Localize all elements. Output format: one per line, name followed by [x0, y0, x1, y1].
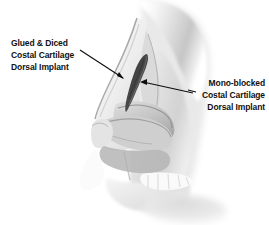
- label-right-line-2: Costal Cartilage: [202, 89, 265, 101]
- glued-and-diced-graft-label: Glued & Diced Costal Cartilage Dorsal Im…: [11, 37, 74, 73]
- figure-canvas: Glued & Diced Costal Cartilage Dorsal Im…: [0, 0, 269, 225]
- label-left-line-2: Costal Cartilage: [11, 49, 74, 61]
- label-right-line-3: Dorsal Implant: [202, 101, 265, 113]
- label-right-line-1: Mono-blocked: [202, 77, 265, 89]
- label-left-line-3: Dorsal Implant: [11, 61, 74, 73]
- mono-blocked-graft-label: Mono-blocked Costal Cartilage Dorsal Imp…: [202, 77, 265, 113]
- label-left-line-1: Glued & Diced: [11, 37, 74, 49]
